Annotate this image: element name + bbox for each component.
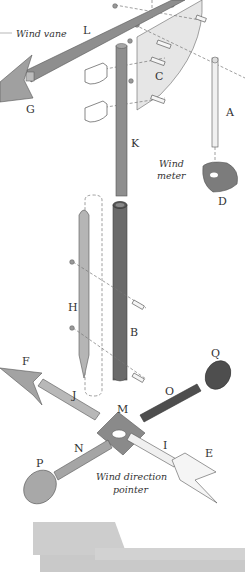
- label-g: G: [26, 103, 35, 116]
- caption-wind-direction-1: Wind direction: [96, 471, 167, 482]
- weather-station-diagram: Wind vane Wind meter Wind direction poin…: [0, 0, 245, 572]
- caption-wind-meter-1: Wind: [159, 158, 184, 169]
- label-b: B: [130, 326, 138, 339]
- label-e: E: [205, 447, 213, 460]
- label-l: L: [83, 24, 91, 37]
- label-d: D: [218, 195, 227, 208]
- part-k-pole: [116, 44, 127, 197]
- label-p: P: [36, 457, 44, 470]
- label-n: N: [74, 442, 84, 455]
- part-h-spike: [79, 210, 89, 378]
- label-c: C: [155, 70, 163, 83]
- caption-wind-meter-2: meter: [157, 170, 187, 181]
- caption-wind-vane: Wind vane: [16, 28, 67, 39]
- label-f: F: [22, 355, 30, 368]
- part-d-cup: [203, 162, 238, 192]
- label-h: H: [68, 301, 78, 314]
- part-j-arm: [38, 379, 100, 420]
- brackets: [85, 63, 107, 122]
- label-j: J: [71, 389, 76, 402]
- label-i: I: [163, 439, 167, 452]
- part-e-arrowhead: [172, 453, 217, 503]
- part-f-arrowhead: [0, 368, 42, 405]
- part-a-rod: [212, 57, 218, 178]
- caption-wind-direction-2: pointer: [113, 484, 149, 495]
- label-m: M: [117, 403, 128, 416]
- label-q: Q: [211, 347, 220, 360]
- label-k: K: [131, 137, 140, 150]
- part-q-disc: [200, 356, 236, 394]
- part-i-arm: [127, 433, 178, 467]
- label-a: A: [225, 106, 235, 119]
- label-o: O: [165, 385, 174, 398]
- blurred-photo-strip: [33, 522, 245, 572]
